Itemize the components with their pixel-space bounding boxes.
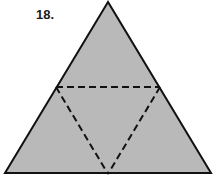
outer-triangle bbox=[5, 2, 211, 173]
triangle-net-diagram bbox=[0, 0, 216, 182]
